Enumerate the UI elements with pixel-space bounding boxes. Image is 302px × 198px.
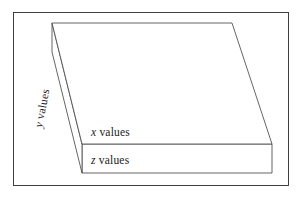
- slab-top-face: [52, 23, 272, 144]
- z-axis-label: z values: [90, 154, 130, 166]
- x-axis-label: x values: [90, 126, 130, 138]
- diagram-canvas: y values x values z values: [0, 0, 302, 198]
- figure-root: y values x values z values: [0, 0, 302, 198]
- x-axis-word: values: [99, 126, 130, 138]
- y-axis-word: values: [34, 88, 52, 121]
- y-axis-label: y values: [32, 88, 52, 130]
- slab-group: [52, 23, 272, 173]
- z-axis-word: values: [99, 154, 130, 166]
